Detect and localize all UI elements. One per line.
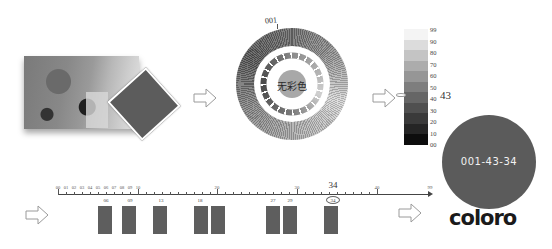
chroma-highlight-value: 34 [329,180,338,190]
ruler-tick [273,192,274,195]
scale-cell-30 [404,103,428,114]
ruler-label: 07 [112,185,117,190]
ruler-tick [257,192,258,195]
ruler-tick [377,189,378,195]
right-arrow-outline-icon [25,205,49,225]
scale-cell-70 [404,61,428,72]
bar-label: 34 [331,198,336,203]
scale-label: 90 [430,38,446,45]
ruler-tick [353,192,354,195]
ruler-tick [162,192,163,195]
result-color-code: 001-43-34 [442,156,536,167]
bar-label: 13 [159,198,164,203]
ruler-tick [58,189,59,195]
ruler-label: 01 [64,185,69,190]
ruler-tick [74,192,75,195]
ruler-tick [265,192,266,195]
ruler-tick [106,192,107,195]
ruler-tick [329,192,330,195]
right-arrow-outline-icon [372,88,396,108]
ruler-tick [217,189,218,195]
chroma-bar [266,206,280,234]
scale-label: 80 [430,49,446,56]
hue-marker-tick [277,24,278,29]
ruler-tick [233,192,234,195]
ruler-label: 09 [128,185,133,190]
ruler-tick [154,192,155,195]
ruler-tick [305,192,306,195]
lightness-pointer-icon [396,93,406,97]
ruler-label: 04 [88,185,93,190]
ruler-tick [138,189,139,195]
ruler-tick [170,192,171,195]
lightness-selected-value: 43 [440,89,451,101]
ruler-tick [210,192,211,195]
ruler-label: 08 [120,185,125,190]
scale-label: 70 [430,61,446,68]
ruler-tick [337,192,338,195]
ruler-label: 02 [72,185,77,190]
ruler-tick [66,192,67,195]
ruler-tick [241,192,242,195]
scale-cell-00 [404,134,428,145]
ruler-tick [369,192,370,195]
chroma-bar [194,206,208,234]
scale-cell-60 [404,71,428,82]
ruler-arrowhead-icon [428,191,433,197]
right-arrow-outline-icon [193,88,217,108]
chroma-bar-selected [324,206,338,234]
scale-cell-50 [404,82,428,93]
hue-marker-label: 001 [256,14,287,26]
ruler-tick [82,192,83,195]
ruler-tick [289,192,290,195]
ruler-tick [90,192,91,195]
ruler-tick [225,192,226,195]
scale-label: 60 [430,72,446,79]
ruler-tick [130,192,131,195]
ruler-tick [98,192,99,195]
chroma-bar [153,206,167,234]
scale-cell-20 [404,113,428,124]
ruler-tick [345,192,346,195]
chroma-bar [283,206,297,234]
right-arrow-outline-icon [398,203,422,223]
scale-label: 10 [430,130,446,137]
ruler-tick [321,192,322,195]
ruler-tick [186,192,187,195]
lightness-scale-labels: 99 90 80 70 60 50 40 30 20 10 00 [430,26,446,148]
ruler-tick [194,192,195,195]
bar-label: 09 [128,198,133,203]
scale-cell-40 [404,92,428,103]
chroma-bar [98,206,112,234]
bar-label: 27 [271,198,276,203]
ruler-label: 99 [428,185,433,190]
chroma-bar [211,206,225,234]
ruler-tick [122,192,123,195]
chroma-bar [122,206,136,234]
ruler-label: 05 [96,185,101,190]
scale-cell-99 [404,29,428,40]
lightness-scale [404,29,428,145]
bar-label: 29 [288,198,293,203]
ruler-tick [249,192,250,195]
ruler-tick [202,192,203,195]
ruler-tick [146,192,147,195]
scale-cell-10 [404,124,428,135]
ruler-tick [313,192,314,195]
ruler-tick [297,189,298,195]
scale-cell-90 [404,40,428,51]
scale-label: 20 [430,118,446,125]
scale-label: 30 [430,107,446,114]
scale-label: 99 [430,26,446,33]
photo-highlight [86,92,108,128]
bar-label: 06 [104,198,109,203]
bar-label: 18 [198,198,203,203]
ruler-label: 06 [104,185,109,190]
scale-cell-80 [404,50,428,61]
achromatic-label: 无彩色 [266,78,318,93]
ruler-tick [361,192,362,195]
ruler-tick [114,192,115,195]
ruler-tick [281,192,282,195]
brand-logo: coloro [449,206,539,230]
ruler-tick [178,192,179,195]
